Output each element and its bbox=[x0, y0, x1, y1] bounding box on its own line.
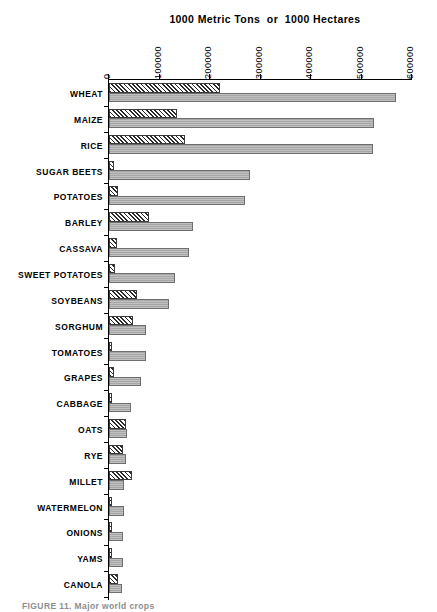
category-label: BARLEY bbox=[0, 218, 103, 228]
bar-metric-tons bbox=[109, 403, 131, 413]
category-axis-tick bbox=[104, 442, 109, 443]
bar-metric-tons bbox=[109, 93, 396, 103]
figure-caption: FIGURE 11. Major world crops bbox=[22, 601, 155, 611]
category-label: SORGHUM bbox=[0, 322, 103, 332]
bar-hectares bbox=[109, 574, 118, 584]
bar-metric-tons bbox=[109, 118, 374, 128]
bar-row: SUGAR BEETS bbox=[0, 161, 437, 187]
category-axis-tick bbox=[104, 158, 109, 159]
x-axis-line bbox=[108, 79, 412, 80]
category-axis-tick bbox=[104, 338, 109, 339]
bar-metric-tons bbox=[109, 170, 250, 180]
bar-hectares bbox=[109, 264, 115, 274]
category-axis-tick bbox=[104, 494, 109, 495]
bar-metric-tons bbox=[109, 377, 141, 387]
bar-metric-tons bbox=[109, 196, 245, 206]
bar-row: CASSAVA bbox=[0, 238, 437, 264]
category-axis-tick bbox=[104, 261, 109, 262]
category-label: MAIZE bbox=[0, 115, 103, 125]
bar-metric-tons bbox=[109, 144, 373, 154]
category-label: GRAPES bbox=[0, 373, 103, 383]
bar-metric-tons bbox=[109, 273, 175, 283]
category-label: OATS bbox=[0, 425, 103, 435]
category-axis-tick bbox=[104, 209, 109, 210]
bar-hectares bbox=[109, 316, 133, 326]
bar-row: OATS bbox=[0, 419, 437, 445]
bar-row: CANOLA bbox=[0, 574, 437, 600]
category-label: TOMATOES bbox=[0, 348, 103, 358]
x-axis-tick bbox=[411, 74, 412, 79]
bar-metric-tons bbox=[109, 558, 123, 568]
x-axis-tick bbox=[260, 74, 261, 79]
bar-metric-tons bbox=[109, 325, 146, 335]
bar-hectares bbox=[109, 367, 114, 377]
bar-hectares bbox=[109, 419, 126, 429]
bar-metric-tons bbox=[109, 222, 193, 232]
category-axis-tick bbox=[104, 468, 109, 469]
x-axis-tick bbox=[310, 74, 311, 79]
bar-row: TOMATOES bbox=[0, 342, 437, 368]
bar-hectares bbox=[109, 445, 123, 455]
bar-row: MILLET bbox=[0, 471, 437, 497]
category-label: ONIONS bbox=[0, 528, 103, 538]
bar-metric-tons bbox=[109, 429, 127, 439]
category-axis-tick bbox=[104, 106, 109, 107]
bar-hectares bbox=[109, 238, 117, 248]
x-axis-tick bbox=[159, 74, 160, 79]
bar-hectares bbox=[109, 342, 112, 352]
category-axis-tick bbox=[104, 545, 109, 546]
bar-metric-tons bbox=[109, 351, 146, 361]
category-axis-tick bbox=[104, 390, 109, 391]
x-axis-tick bbox=[209, 74, 210, 79]
bar-row: SORGHUM bbox=[0, 316, 437, 342]
bar-hectares bbox=[109, 471, 132, 481]
category-label: SOYBEANS bbox=[0, 296, 103, 306]
category-axis-tick bbox=[104, 519, 109, 520]
bar-row: ONIONS bbox=[0, 522, 437, 548]
bar-hectares bbox=[109, 212, 149, 222]
category-label: WHEAT bbox=[0, 89, 103, 99]
bar-hectares bbox=[109, 186, 118, 196]
category-label: CANOLA bbox=[0, 580, 103, 590]
bar-metric-tons bbox=[109, 506, 124, 516]
bar-row: WATERMELON bbox=[0, 497, 437, 523]
bar-metric-tons bbox=[109, 584, 122, 594]
bar-row: MAIZE bbox=[0, 109, 437, 135]
bar-row: CABBAGE bbox=[0, 393, 437, 419]
bar-row: BARLEY bbox=[0, 212, 437, 238]
chart-title: 1000 Metric Tons or 1000 Hectares bbox=[160, 13, 370, 25]
bar-row: POTATOES bbox=[0, 186, 437, 212]
bar-row: WHEAT bbox=[0, 83, 437, 109]
category-axis-tick bbox=[104, 416, 109, 417]
bar-metric-tons bbox=[109, 480, 124, 490]
category-label: POTATOES bbox=[0, 192, 103, 202]
category-axis-tick bbox=[104, 132, 109, 133]
category-label: CABBAGE bbox=[0, 399, 103, 409]
category-axis-tick bbox=[104, 364, 109, 365]
category-label: SUGAR BEETS bbox=[0, 167, 103, 177]
bar-row: RICE bbox=[0, 135, 437, 161]
category-axis-tick bbox=[104, 235, 109, 236]
category-label: RYE bbox=[0, 451, 103, 461]
category-axis-tick bbox=[104, 183, 109, 184]
x-axis-tick bbox=[361, 74, 362, 79]
bar-hectares bbox=[109, 161, 114, 171]
bar-metric-tons bbox=[109, 299, 169, 309]
bar-row: SOYBEANS bbox=[0, 290, 437, 316]
bar-row: RYE bbox=[0, 445, 437, 471]
category-label: YAMS bbox=[0, 554, 103, 564]
bar-row: GRAPES bbox=[0, 367, 437, 393]
bar-hectares bbox=[109, 109, 177, 119]
bar-hectares bbox=[109, 522, 112, 532]
category-axis-tick bbox=[104, 571, 109, 572]
bar-hectares bbox=[109, 135, 185, 145]
bar-hectares bbox=[109, 393, 112, 403]
chart-root: 1000 Metric Tons or 1000 Hectares 010000… bbox=[0, 0, 437, 612]
category-label: WATERMELON bbox=[0, 503, 103, 513]
category-label: MILLET bbox=[0, 477, 103, 487]
category-label: CASSAVA bbox=[0, 244, 103, 254]
bar-hectares bbox=[109, 83, 220, 93]
category-axis-tick bbox=[104, 287, 109, 288]
category-label: RICE bbox=[0, 141, 103, 151]
category-label: SWEET POTATOES bbox=[0, 270, 103, 280]
